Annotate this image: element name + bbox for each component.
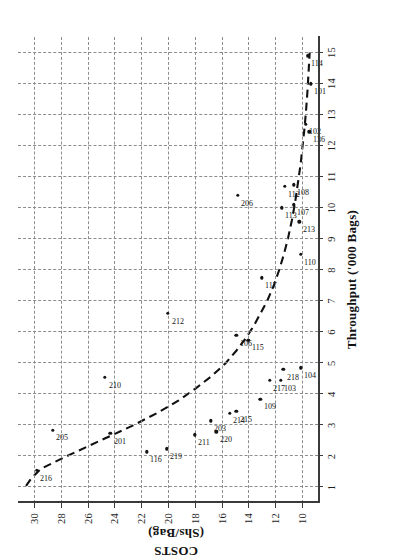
gridline-horizontal bbox=[88, 37, 89, 503]
y-tick-mark bbox=[275, 503, 276, 508]
gridline-horizontal bbox=[141, 37, 142, 503]
y-axis-line bbox=[18, 501, 319, 503]
data-point-label: 108 bbox=[297, 177, 305, 189]
y-tick-label: 10 bbox=[296, 513, 307, 524]
x-tick-label: 15 bbox=[326, 47, 337, 58]
data-point-label: 220 bbox=[220, 424, 228, 436]
x-tick-label: 4 bbox=[326, 392, 337, 397]
x-axis-title: Throughput ('000 Bags) bbox=[344, 210, 360, 349]
y-tick-label: 16 bbox=[216, 513, 227, 524]
y-tick-mark bbox=[195, 503, 196, 508]
data-point-label: 211 bbox=[198, 427, 206, 439]
data-point-label: 215 bbox=[240, 404, 248, 416]
y-tick-label: 26 bbox=[82, 513, 93, 524]
data-point-label: 109 bbox=[264, 391, 272, 403]
y-tick-label: 20 bbox=[163, 513, 174, 524]
y-tick-mark bbox=[168, 503, 169, 508]
y-tick-mark bbox=[114, 503, 115, 508]
y-tick-mark bbox=[222, 503, 223, 508]
x-tick-label: 10 bbox=[326, 202, 337, 213]
gridline-horizontal bbox=[275, 37, 276, 503]
gridline-horizontal bbox=[248, 37, 249, 503]
y-tick-label: 30 bbox=[29, 513, 40, 524]
y-tick-mark bbox=[248, 503, 249, 508]
data-point-label: 210 bbox=[109, 370, 117, 382]
x-tick-label: 11 bbox=[326, 172, 337, 183]
x-tick-label: 1 bbox=[326, 485, 337, 490]
data-point-label: 117 bbox=[265, 271, 273, 283]
gridline-horizontal bbox=[168, 37, 169, 503]
y-tick-mark bbox=[34, 503, 35, 508]
y-tick-mark bbox=[61, 503, 62, 508]
data-point-label: 201 bbox=[114, 426, 122, 438]
data-point-label: 104 bbox=[304, 360, 312, 372]
x-tick-label: 5 bbox=[326, 360, 337, 365]
x-tick-label: 12 bbox=[326, 140, 337, 151]
data-point-label: 116 bbox=[150, 445, 158, 457]
data-point-label: 113 bbox=[285, 201, 293, 213]
y-tick-label: 22 bbox=[136, 513, 147, 524]
gridline-horizontal bbox=[302, 37, 303, 503]
y-tick-label: 12 bbox=[270, 513, 281, 524]
y-tick-mark bbox=[88, 503, 89, 508]
figure-viewport: 1234567891011121314153028262422201816141… bbox=[0, 0, 397, 559]
x-tick-label: 3 bbox=[326, 423, 337, 428]
y-tick-label: 24 bbox=[109, 513, 120, 524]
data-point-label: 107 bbox=[297, 197, 305, 209]
x-tick-label: 9 bbox=[326, 236, 337, 241]
x-tick-label: 7 bbox=[326, 298, 337, 303]
y-axis-title-costs: COSTS bbox=[154, 543, 198, 559]
rotated-figure-canvas: 1234567891011121314153028262422201816141… bbox=[0, 0, 397, 559]
x-tick-label: 2 bbox=[326, 454, 337, 459]
data-point-label: 206 bbox=[241, 188, 249, 200]
y-axis-title-units: (Shs/Bag) bbox=[148, 525, 204, 541]
data-point-label: 212 bbox=[172, 306, 180, 318]
data-point-label: 115 bbox=[252, 333, 260, 345]
x-tick-label: 6 bbox=[326, 329, 337, 334]
y-tick-label: 28 bbox=[55, 513, 66, 524]
data-point-label: 110 bbox=[304, 247, 312, 259]
data-point-label: 205 bbox=[56, 423, 64, 435]
x-tick-label: 8 bbox=[326, 267, 337, 272]
data-point-label: 216 bbox=[40, 463, 48, 475]
y-tick-label: 14 bbox=[243, 513, 254, 524]
data-point-label: 213 bbox=[303, 214, 311, 226]
y-tick-mark bbox=[141, 503, 142, 508]
y-tick-mark bbox=[302, 503, 303, 508]
data-point-label: 218 bbox=[287, 362, 295, 374]
x-tick-label: 14 bbox=[326, 78, 337, 89]
x-tick-label: 13 bbox=[326, 109, 337, 120]
gridline-horizontal bbox=[34, 37, 35, 503]
plot-stage: 1234567891011121314153028262422201816141… bbox=[0, 0, 397, 559]
data-point-label: 219 bbox=[170, 441, 178, 453]
y-tick-label: 18 bbox=[189, 513, 200, 524]
x-axis-line bbox=[318, 36, 320, 503]
